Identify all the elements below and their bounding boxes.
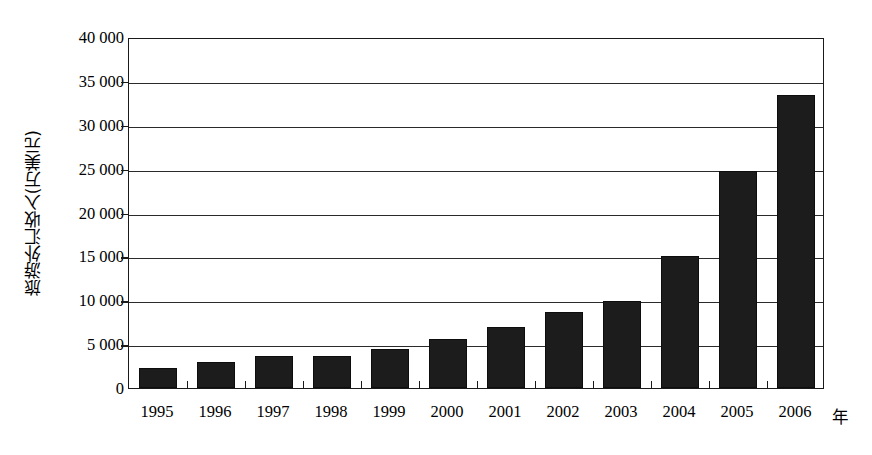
y-axis-title-text: 旅游外汇收入(万美元) <box>20 130 45 296</box>
bar-2001 <box>487 327 525 388</box>
y-axis-tick-label: 0 <box>44 381 124 397</box>
x-axis-tick-mark <box>477 381 478 388</box>
x-axis-tick-mark <box>593 381 594 388</box>
bar-2006 <box>777 95 815 388</box>
plot-area <box>128 38 824 389</box>
bar-2002 <box>545 312 583 388</box>
bar-1995 <box>139 368 177 388</box>
bar-2005 <box>719 171 757 388</box>
x-axis-tick-mark <box>245 381 246 388</box>
bar-1999 <box>371 349 409 388</box>
x-axis-tick-label: 2006 <box>760 402 830 422</box>
bar-2003 <box>603 301 641 388</box>
x-axis-tick-mark <box>709 381 710 388</box>
y-axis-tick-label: 25 000 <box>44 162 124 178</box>
x-axis-tick-mark <box>419 381 420 388</box>
y-axis-tick-label: 10 000 <box>44 293 124 309</box>
bar-1997 <box>255 356 293 388</box>
x-axis-tick-mark <box>187 381 188 388</box>
y-axis-tick-mark <box>121 345 128 346</box>
y-axis-tick-label: 30 000 <box>44 118 124 134</box>
bar-2004 <box>661 256 699 388</box>
y-axis-tick-mark <box>121 126 128 127</box>
y-axis-tick-label: 40 000 <box>44 30 124 46</box>
y-axis-tick-mark <box>121 301 128 302</box>
x-axis-tick-mark <box>361 381 362 388</box>
x-axis-tick-mark <box>651 381 652 388</box>
y-axis-tick-mark <box>121 214 128 215</box>
x-axis-title: 年 <box>832 404 849 428</box>
y-axis-tick-label: 20 000 <box>44 206 124 222</box>
x-axis-tick-mark <box>767 381 768 388</box>
bar-2000 <box>429 339 467 388</box>
gridline <box>129 127 823 128</box>
x-axis-tick-labels: 1995199619971998199920002001200220032004… <box>128 402 824 432</box>
x-axis-tick-mark <box>535 381 536 388</box>
y-axis-tick-label: 35 000 <box>44 74 124 90</box>
bar-chart-figure: 旅游外汇收入(万美元) 05 00010 00015 00020 00025 0… <box>0 0 872 455</box>
y-axis-tick-label: 15 000 <box>44 249 124 265</box>
y-axis-tick-labels: 05 00010 00015 00020 00025 00030 00035 0… <box>44 0 124 455</box>
gridline <box>129 83 823 84</box>
y-axis-tick-mark <box>121 170 128 171</box>
bar-1996 <box>197 362 235 388</box>
bar-1998 <box>313 356 351 388</box>
y-axis-tick-mark <box>121 82 128 83</box>
y-axis-tick-label: 5 000 <box>44 337 124 353</box>
x-axis-tick-mark <box>303 381 304 388</box>
y-axis-tick-mark <box>121 257 128 258</box>
